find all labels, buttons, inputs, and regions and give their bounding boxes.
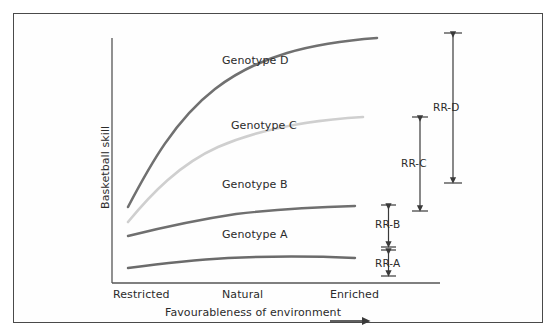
range-label-rr-b: RR-B	[375, 218, 400, 230]
y-axis-label: Basketball skill	[99, 126, 112, 209]
x-tick-restricted: Restricted	[113, 288, 170, 301]
curve-label-genotype-a: Genotype A	[222, 228, 288, 241]
range-label-rr-a: RR-A	[375, 257, 400, 269]
axis-lines	[112, 38, 440, 283]
x-tick-natural: Natural	[222, 288, 263, 301]
range-annotations	[381, 33, 462, 276]
range-label-rr-d: RR-D	[433, 101, 459, 113]
curve-genotype-a	[128, 257, 355, 269]
chart-canvas	[0, 0, 556, 336]
curve-label-genotype-c: Genotype C	[231, 119, 297, 132]
curve-label-genotype-b: Genotype B	[222, 178, 288, 191]
x-axis-label: Favourableness of environment	[165, 306, 341, 319]
curve-label-genotype-d: Genotype D	[222, 54, 289, 67]
x-tick-enriched: Enriched	[330, 288, 379, 301]
range-label-rr-c: RR-C	[401, 157, 427, 169]
chart-screenshot: Basketball skill Genotype D Genotype C G…	[0, 0, 556, 336]
